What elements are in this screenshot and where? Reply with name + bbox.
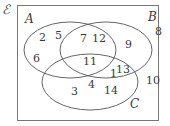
element-4: 4 xyxy=(88,78,95,91)
set-b-ellipse xyxy=(60,22,152,78)
element-7: 7 xyxy=(80,32,87,45)
element-2: 2 xyxy=(39,31,46,44)
element-10: 10 xyxy=(146,74,160,87)
element-12: 12 xyxy=(92,32,106,45)
element-3: 3 xyxy=(71,85,78,98)
venn-diagram: ℰ A B C 2 5 6 7 12 9 8 11 1 13 4 3 14 10 xyxy=(0,0,170,126)
element-13: 13 xyxy=(116,63,130,76)
universal-set-symbol: ℰ xyxy=(2,2,11,17)
element-5: 5 xyxy=(55,29,62,42)
set-c-label: C xyxy=(130,97,139,111)
set-a-ellipse xyxy=(24,22,116,78)
element-14: 14 xyxy=(104,84,118,97)
element-8: 8 xyxy=(155,25,162,38)
element-6: 6 xyxy=(33,52,40,65)
element-11: 11 xyxy=(83,55,97,68)
element-9: 9 xyxy=(125,38,132,51)
set-a-label: A xyxy=(24,12,34,26)
set-b-label: B xyxy=(147,10,157,24)
